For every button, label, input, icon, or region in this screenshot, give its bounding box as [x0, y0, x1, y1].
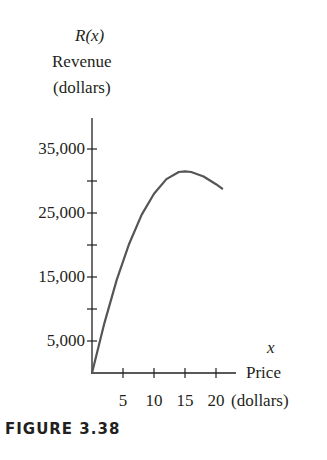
revenue-curve: [92, 171, 222, 373]
figure-caption: FIGURE 3.38: [5, 420, 120, 438]
revenue-chart: [0, 0, 327, 460]
